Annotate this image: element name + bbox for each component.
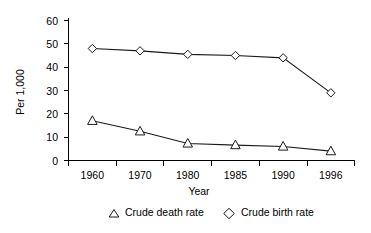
chart-legend: Crude death rate Crude birth rate xyxy=(109,206,314,218)
y-tick-label-0: 0 xyxy=(52,155,58,167)
legend-item-crude-birth-rate[interactable]: Crude birth rate xyxy=(224,206,314,218)
triangle-icon xyxy=(109,210,119,218)
y-tick-label-50: 50 xyxy=(46,38,58,50)
x-tick-label-1970: 1970 xyxy=(128,169,152,181)
series-markers-crude-birth-rate xyxy=(88,44,335,97)
series-markers-crude-death-rate xyxy=(88,116,336,155)
y-tick-label-20: 20 xyxy=(46,108,58,120)
y-tick-label-40: 40 xyxy=(46,61,58,73)
data-point-marker xyxy=(184,50,192,58)
data-point-marker xyxy=(88,116,98,125)
x-tick-label-1990: 1990 xyxy=(271,169,295,181)
y-tick-label-30: 30 xyxy=(46,85,58,97)
x-axis-ticks xyxy=(69,161,355,167)
x-tick-label-1985: 1985 xyxy=(224,169,248,181)
legend-label-crude-birth-rate: Crude birth rate xyxy=(241,206,314,218)
data-point-marker xyxy=(88,44,96,52)
y-axis-title: Per 1,000 xyxy=(14,69,26,115)
series-line-crude-death-rate xyxy=(92,121,331,151)
legend-item-crude-death-rate[interactable]: Crude death rate xyxy=(109,206,204,218)
data-point-marker xyxy=(231,51,239,59)
data-point-marker xyxy=(231,140,241,149)
x-tick-label-1980: 1980 xyxy=(176,169,200,181)
data-point-marker xyxy=(279,54,287,62)
chart-container: 0 10 20 30 40 50 60 1960 1970 1980 1985 … xyxy=(0,0,371,233)
data-point-marker xyxy=(327,89,335,97)
x-tick-label-1960: 1960 xyxy=(81,169,105,181)
data-point-marker xyxy=(136,47,144,55)
x-axis-title: Year xyxy=(188,185,210,197)
y-axis-ticks xyxy=(64,21,69,161)
data-point-marker xyxy=(278,142,288,151)
legend-label-crude-death-rate: Crude death rate xyxy=(125,206,204,218)
series-line-crude-birth-rate xyxy=(92,49,331,93)
y-tick-label-60: 60 xyxy=(46,15,58,27)
line-chart: 0 10 20 30 40 50 60 1960 1970 1980 1985 … xyxy=(0,0,371,233)
y-tick-label-10: 10 xyxy=(46,131,58,143)
x-tick-label-1996: 1996 xyxy=(319,169,343,181)
diamond-icon xyxy=(224,208,235,218)
